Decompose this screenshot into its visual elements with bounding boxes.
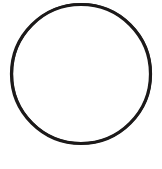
image-canvas: Blank white page containing a single han… <box>0 0 162 169</box>
figure-svg-root <box>0 0 162 169</box>
